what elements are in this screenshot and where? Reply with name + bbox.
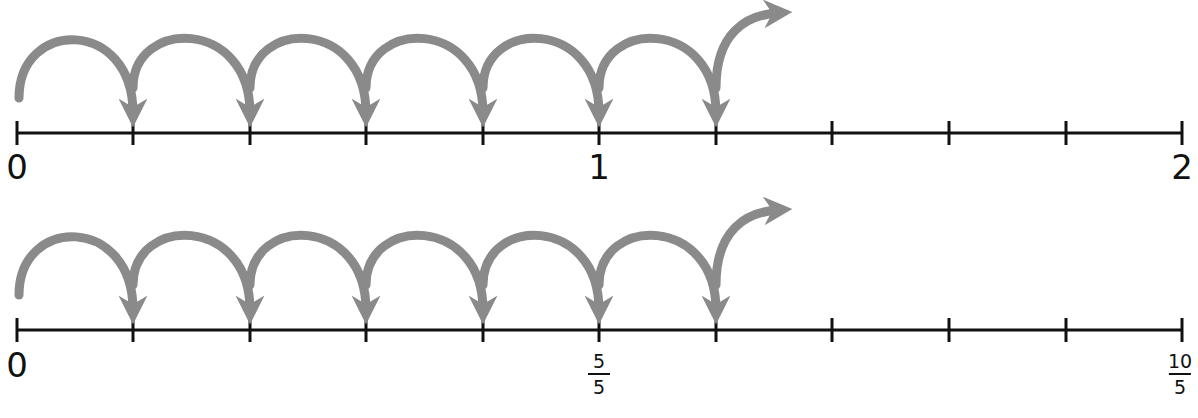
label-one: 1 [588,150,610,184]
denominator: 5 [593,378,605,397]
numerator: 10 [1168,352,1192,371]
jump-arrow [366,235,483,310]
jump-arrow [250,38,366,113]
label-zero: 0 [6,150,28,184]
continuing-jump-arrow [716,13,778,88]
jump-arrow [599,235,716,310]
jump-arrow [483,235,599,310]
number-line-whole [17,13,1182,145]
continuing-jump-arrow [716,210,778,285]
jump-arrow [19,237,133,310]
fraction-bar [588,373,610,375]
numerator: 5 [593,352,605,371]
jump-arrow [366,38,483,113]
jump-arrow [133,235,250,310]
label-ten-fifths: 10 5 [1168,352,1192,397]
jump-arrow [483,38,599,113]
jump-arrow [19,40,133,113]
denominator: 5 [1174,378,1186,397]
fraction-bar [1169,373,1191,375]
label-five-fifths: 5 5 [588,352,610,397]
label-zero-fifths: 0 [6,348,28,382]
jump-arrow [250,235,366,310]
number-line-fifths [17,210,1182,342]
label-two: 2 [1171,150,1193,184]
jump-arrow [133,38,250,113]
jump-arrow [599,38,716,113]
